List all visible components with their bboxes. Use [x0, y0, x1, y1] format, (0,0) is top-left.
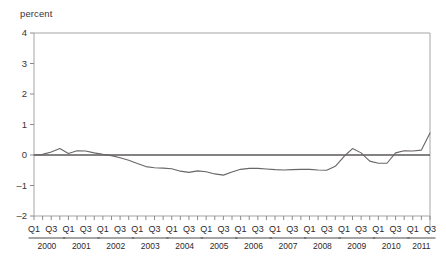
svg-text:Q3: Q3 — [424, 224, 436, 234]
svg-text:Q1: Q1 — [28, 224, 40, 234]
svg-text:0: 0 — [22, 149, 27, 160]
svg-text:Q3: Q3 — [355, 224, 367, 234]
svg-text:Q3: Q3 — [321, 224, 333, 234]
svg-text:–1: –1 — [16, 180, 27, 191]
svg-text:Q3: Q3 — [252, 224, 264, 234]
svg-text:2006: 2006 — [244, 241, 263, 251]
svg-text:2: 2 — [22, 88, 27, 99]
svg-text:2002: 2002 — [106, 241, 125, 251]
chart-container: percent Q1Q3Q1Q3Q1Q3Q1Q3Q1Q3Q1Q3Q1Q3Q1Q3… — [0, 0, 446, 268]
svg-text:2009: 2009 — [347, 241, 366, 251]
svg-text:Q1: Q1 — [235, 224, 247, 234]
svg-text:Q1: Q1 — [97, 224, 109, 234]
svg-text:Q3: Q3 — [286, 224, 298, 234]
line-chart-plot: Q1Q3Q1Q3Q1Q3Q1Q3Q1Q3Q1Q3Q1Q3Q1Q3Q1Q3Q1Q3… — [0, 0, 446, 268]
svg-text:2008: 2008 — [313, 241, 332, 251]
x-axis-year-labels: 2000200120022003200420052006200720082009… — [29, 238, 436, 251]
svg-text:Q1: Q1 — [303, 224, 315, 234]
svg-text:Q1: Q1 — [407, 224, 419, 234]
svg-text:Q1: Q1 — [166, 224, 178, 234]
svg-text:2003: 2003 — [141, 241, 160, 251]
svg-text:Q3: Q3 — [183, 224, 195, 234]
svg-text:Q3: Q3 — [80, 224, 92, 234]
svg-text:Q1: Q1 — [269, 224, 281, 234]
svg-text:1: 1 — [22, 119, 27, 130]
svg-text:Q1: Q1 — [131, 224, 143, 234]
svg-text:Q3: Q3 — [217, 224, 229, 234]
svg-text:4: 4 — [22, 27, 27, 38]
svg-text:Q3: Q3 — [45, 224, 57, 234]
svg-text:3: 3 — [22, 58, 27, 69]
x-axis-ticks — [34, 216, 430, 220]
svg-text:2004: 2004 — [175, 241, 194, 251]
svg-text:–2: –2 — [16, 210, 27, 221]
svg-text:2001: 2001 — [72, 241, 91, 251]
svg-text:2010: 2010 — [382, 241, 401, 251]
svg-text:Q1: Q1 — [200, 224, 212, 234]
svg-text:2007: 2007 — [278, 241, 297, 251]
data-series-line — [34, 133, 430, 175]
svg-text:Q1: Q1 — [338, 224, 350, 234]
svg-text:2005: 2005 — [210, 241, 229, 251]
y-axis-ticks — [30, 33, 34, 216]
plot-frame — [34, 33, 430, 230]
svg-text:2000: 2000 — [37, 241, 56, 251]
svg-text:Q1: Q1 — [62, 224, 74, 234]
svg-text:Q3: Q3 — [149, 224, 161, 234]
svg-text:Q1: Q1 — [372, 224, 384, 234]
svg-text:Q3: Q3 — [390, 224, 402, 234]
y-axis-tick-labels: 43210–1–2 — [16, 27, 27, 221]
svg-text:Q3: Q3 — [114, 224, 126, 234]
svg-text:2011: 2011 — [412, 241, 431, 251]
x-axis-quarter-labels: Q1Q3Q1Q3Q1Q3Q1Q3Q1Q3Q1Q3Q1Q3Q1Q3Q1Q3Q1Q3… — [28, 224, 436, 234]
